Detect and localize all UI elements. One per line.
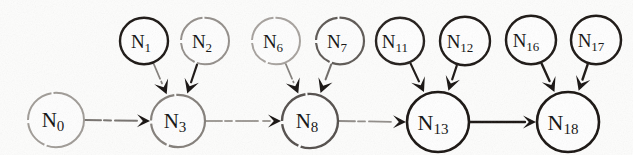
- node-label-subscript: 3: [179, 119, 187, 135]
- node-n3[interactable]: N3: [151, 95, 205, 147]
- node-label-subscript: 12: [460, 40, 473, 55]
- graph-diagram: N0N1N2N3N6N7N8N11N12N13N16N17N18: [0, 0, 633, 155]
- node-label-subscript: 17: [591, 39, 605, 54]
- node-label-subscript: 11: [396, 40, 409, 55]
- node-n17[interactable]: N17: [571, 16, 621, 65]
- edge-n8-to-n13: [339, 115, 406, 128]
- node-n16[interactable]: N16: [506, 16, 556, 65]
- node-n1[interactable]: N1: [120, 18, 168, 65]
- edge-n11-to-n13: [411, 64, 425, 92]
- node-n6[interactable]: N6: [252, 18, 300, 65]
- node-n11[interactable]: N11: [376, 18, 424, 65]
- edge-n2-to-n3: [185, 65, 199, 94]
- node-n0[interactable]: N0: [28, 93, 84, 147]
- node-label-subscript: 7: [341, 40, 348, 55]
- edge-n3-to-n8: [206, 115, 281, 128]
- nodes-layer: N0N1N2N3N6N7N8N11N12N13N16N17N18: [28, 16, 621, 152]
- node-n8[interactable]: N8: [282, 94, 338, 148]
- edge-n0-to-n3: [85, 114, 150, 127]
- node-n2[interactable]: N2: [181, 18, 229, 65]
- graph-canvas: N0N1N2N3N6N7N8N11N12N13N16N17N18: [0, 0, 633, 155]
- node-label-subscript: 18: [563, 121, 578, 137]
- node-label-subscript: 16: [526, 39, 540, 54]
- edge-n16-to-n18: [542, 64, 556, 92]
- node-label-subscript: 13: [433, 121, 448, 137]
- node-n7[interactable]: N7: [316, 18, 364, 65]
- node-label-subscript: 1: [145, 40, 152, 55]
- node-n13[interactable]: N13: [407, 92, 469, 152]
- edge-n17-to-n18: [576, 65, 590, 91]
- node-label-subscript: 0: [57, 118, 65, 134]
- edge-n6-to-n8: [286, 64, 300, 93]
- edge-n1-to-n3: [154, 64, 168, 94]
- node-label-subscript: 6: [277, 40, 284, 55]
- node-label-subscript: 8: [311, 119, 319, 135]
- node-n18[interactable]: N18: [537, 92, 599, 152]
- node-label-subscript: 2: [206, 40, 213, 55]
- edge-n12-to-n13: [446, 66, 460, 91]
- edge-n7-to-n8: [318, 64, 332, 93]
- edge-n13-to-n18: [470, 116, 536, 129]
- node-n12[interactable]: N12: [440, 17, 490, 66]
